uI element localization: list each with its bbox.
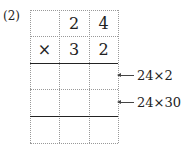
answer-cell[interactable]	[30, 116, 59, 143]
grid-cell	[30, 10, 59, 36]
grid-cell: 3	[59, 36, 89, 63]
annotation-text: 24×30	[137, 95, 181, 110]
answer-cell[interactable]	[30, 63, 59, 89]
annotation-partial-2: 24×30	[118, 95, 181, 110]
answer-cell[interactable]	[59, 89, 89, 116]
arrow-left-icon	[118, 102, 134, 103]
multiplication-grid: 2 4 × 3 2	[30, 10, 118, 143]
arrow-left-icon	[118, 75, 134, 76]
answer-cell[interactable]	[59, 63, 89, 89]
answer-cell[interactable]	[59, 116, 89, 143]
grid-cell: 2	[89, 36, 118, 63]
answer-cell[interactable]	[89, 89, 118, 116]
answer-cell[interactable]	[89, 63, 118, 89]
multiply-sign: ×	[30, 36, 59, 63]
answer-cell[interactable]	[30, 89, 59, 116]
annotation-text: 24×2	[137, 68, 173, 83]
grid-cell: 4	[89, 10, 118, 36]
annotation-partial-1: 24×2	[118, 68, 173, 83]
problem-label: (2)	[3, 9, 20, 23]
grid-line	[30, 143, 118, 144]
grid-cell: 2	[59, 10, 89, 36]
answer-cell[interactable]	[89, 116, 118, 143]
